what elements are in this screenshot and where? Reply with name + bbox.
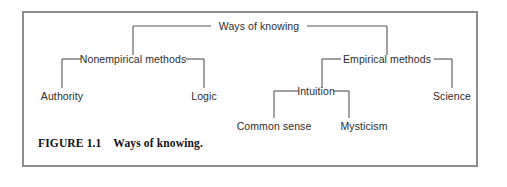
node-ways-of-knowing: Ways of knowing [219, 20, 299, 32]
node-science: Science [433, 90, 471, 102]
node-intuition: Intuition [297, 85, 335, 97]
node-authority: Authority [41, 90, 83, 102]
node-nonempirical-methods: Nonempirical methods [80, 53, 186, 65]
node-empirical-methods: Empirical methods [343, 53, 431, 65]
node-common-sense: Common sense [237, 120, 312, 132]
node-logic: Logic [191, 90, 217, 102]
node-mysticism: Mysticism [341, 120, 388, 132]
figure-caption: FIGURE 1.1 Ways of knowing. [38, 137, 203, 149]
figure-page: Ways of knowing Nonempirical methods Emp… [0, 0, 507, 187]
